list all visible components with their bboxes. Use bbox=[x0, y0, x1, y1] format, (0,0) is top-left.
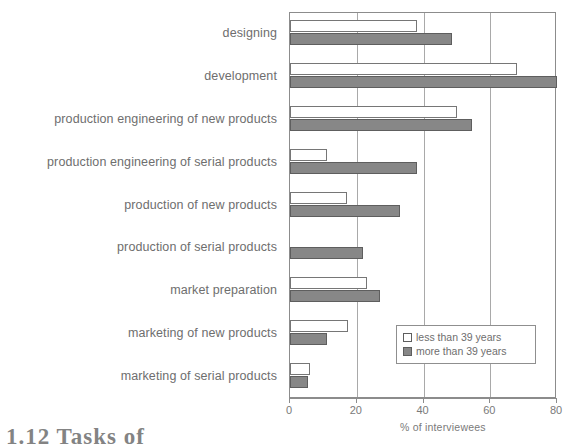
bar-group bbox=[290, 142, 555, 185]
x-tick-80 bbox=[556, 398, 557, 403]
bar-more-than-39 bbox=[290, 290, 380, 302]
y-axis-label: production of new products bbox=[0, 184, 283, 227]
bar-more-than-39 bbox=[290, 333, 327, 345]
bar-group bbox=[290, 99, 555, 142]
legend: less than 39 years more than 39 years bbox=[396, 325, 536, 364]
bar-group bbox=[290, 56, 555, 99]
x-tick-label-0: 0 bbox=[286, 404, 292, 416]
y-axis-label: production of serial products bbox=[0, 226, 283, 269]
bar-group bbox=[290, 270, 555, 313]
y-axis-label: marketing of new products bbox=[0, 312, 283, 355]
bar-more-than-39 bbox=[290, 76, 557, 88]
bar-more-than-39 bbox=[290, 162, 417, 174]
legend-swatch-light-icon bbox=[403, 333, 412, 342]
bar-group bbox=[290, 13, 555, 56]
legend-label-less-than-39-years: less than 39 years bbox=[416, 330, 501, 344]
y-axis-label: production engineering of serial product… bbox=[0, 141, 283, 184]
legend-label-more-than-39-years: more than 39 years bbox=[416, 344, 506, 358]
bar-less-than-39 bbox=[290, 320, 348, 332]
bar-more-than-39 bbox=[290, 376, 308, 388]
x-tick-label-20: 20 bbox=[350, 404, 362, 416]
legend-item-more-than-39-years[interactable]: more than 39 years bbox=[403, 344, 529, 358]
bar-less-than-39 bbox=[290, 363, 310, 375]
x-tick-label-80: 80 bbox=[550, 404, 562, 416]
bar-chart-figure: designingdevelopmentproduction engineeri… bbox=[0, 0, 575, 444]
caption-fragment: 1.12 Tasks of bbox=[6, 424, 145, 444]
x-tick-label-60: 60 bbox=[483, 404, 495, 416]
bar-less-than-39 bbox=[290, 192, 347, 204]
bar-less-than-39 bbox=[290, 20, 417, 32]
legend-swatch-dark-icon bbox=[403, 347, 412, 356]
bar-less-than-39 bbox=[290, 63, 517, 75]
legend-item-less-than-39-years[interactable]: less than 39 years bbox=[403, 330, 529, 344]
y-axis-label: development bbox=[0, 55, 283, 98]
x-tick-40 bbox=[423, 398, 424, 403]
y-axis-label: production engineering of new products bbox=[0, 98, 283, 141]
bar-group bbox=[290, 185, 555, 228]
x-tick-label-40: 40 bbox=[416, 404, 428, 416]
y-axis-label: designing bbox=[0, 12, 283, 55]
bar-more-than-39 bbox=[290, 33, 452, 45]
bar-more-than-39 bbox=[290, 119, 472, 131]
bar-less-than-39 bbox=[290, 277, 367, 289]
y-axis-category-labels: designingdevelopmentproduction engineeri… bbox=[0, 12, 283, 398]
x-tick-0 bbox=[289, 398, 290, 403]
bar-group bbox=[290, 227, 555, 270]
y-axis-label: marketing of serial products bbox=[0, 355, 283, 398]
x-axis-title: % of interviewees bbox=[400, 421, 486, 433]
x-tick-60 bbox=[489, 398, 490, 403]
bar-less-than-39 bbox=[290, 149, 327, 161]
x-tick-20 bbox=[356, 398, 357, 403]
bar-more-than-39 bbox=[290, 205, 400, 217]
bar-more-than-39 bbox=[290, 247, 363, 259]
bar-less-than-39 bbox=[290, 106, 457, 118]
y-axis-label: market preparation bbox=[0, 269, 283, 312]
